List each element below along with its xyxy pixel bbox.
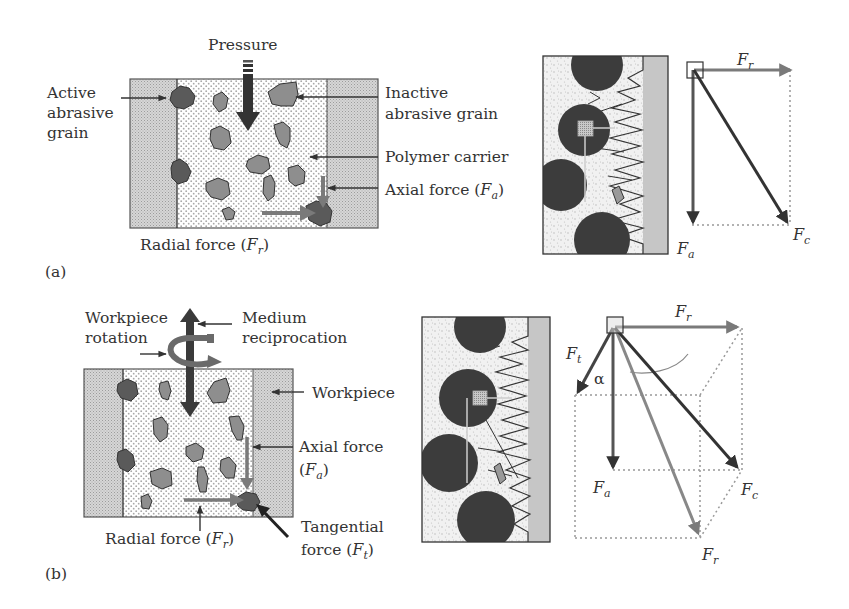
grain-element-b (607, 317, 623, 333)
panel-a: Pressure Active abrasive grain Inactive … (45, 36, 810, 281)
fr-resultant-vector-b (615, 328, 698, 533)
force-vector-diagram-a: Fr Fa Fc (676, 50, 810, 261)
fa-label-a: Fa (676, 239, 695, 261)
fc-label-b: Fc (740, 480, 758, 502)
alpha-label: α (594, 370, 605, 388)
workpiece-wall-right-a (327, 79, 378, 228)
abrasive-particle (457, 491, 515, 549)
force-vector-diagram-b: Fr Ft α Fa Fc Fr (565, 302, 758, 567)
active-grain-label-line3: grain (47, 124, 89, 142)
polymer-carrier-label: Polymer carrier (385, 148, 509, 166)
rotation-arrow (171, 334, 222, 368)
workpiece-label: Workpiece (312, 384, 395, 402)
fc-vector-b (615, 328, 737, 467)
fr-label-b-top: Fr (674, 302, 692, 324)
workpiece-wall-right-b (253, 369, 293, 517)
workpiece-strip-a (643, 56, 668, 254)
fa-label-b: Fa (592, 478, 611, 500)
fc-vector-a (694, 70, 787, 222)
fr-label-a: Fr (736, 50, 754, 72)
workpiece-rotation-label-line2: rotation (85, 329, 148, 347)
panel-b: Workpiece rotation Medium reciprocation … (45, 301, 758, 583)
channel-box-a (130, 79, 378, 228)
ft-label-b: Ft (565, 344, 582, 366)
abrasive-particle (571, 39, 623, 91)
abrasive-particle (454, 301, 506, 353)
inactive-grain-label-line1: Inactive (385, 84, 448, 102)
abrasive-particle (420, 434, 478, 492)
workpiece-strip-b (528, 317, 550, 542)
active-grain-label-line1: Active (46, 84, 96, 102)
workpiece-rotation-label-line1: Workpiece (85, 309, 168, 327)
axial-force-label-b-line2: (Fa) (299, 460, 329, 482)
axial-force-label-b-line1: Axial force (298, 438, 383, 456)
panel-label-b: (b) (45, 565, 67, 583)
medium-reciprocation-label-line1: Medium (242, 309, 307, 327)
axial-force-label-a: Axial force (Fa) (384, 180, 504, 202)
radial-force-label-a: Radial force (Fr) (140, 235, 269, 257)
active-grain-label-line2: abrasive (47, 104, 114, 122)
fc-label-a: Fc (792, 225, 810, 247)
medium-reciprocation-label-line2: reciprocation (242, 329, 347, 347)
inactive-grain-label-line2: abrasive grain (385, 105, 498, 123)
fr-label-b-bottom: Fr (701, 545, 719, 567)
micro-view-b (420, 301, 550, 549)
tangential-force-label-line2: force (Ft) (301, 540, 374, 562)
abrasive-particle (574, 212, 630, 268)
workpiece-wall-left-a (130, 79, 177, 228)
micro-view-a (535, 39, 668, 268)
tangential-force-label-line1: Tangential (301, 518, 384, 536)
panel-label-a: (a) (45, 263, 66, 281)
pressure-label: Pressure (208, 36, 278, 54)
abrasive-flow-force-diagram: Pressure Active abrasive grain Inactive … (0, 0, 849, 609)
radial-force-label-b: Radial force (Fr) (105, 529, 234, 551)
